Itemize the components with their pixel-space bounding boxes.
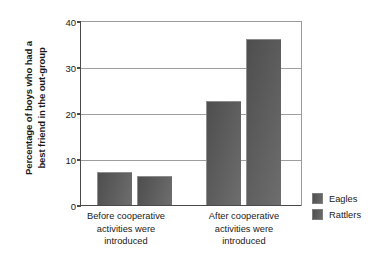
- x-axis-group-label-0: Before cooperative activities were intro…: [66, 210, 186, 248]
- y-axis-tick-mark: [77, 67, 81, 68]
- legend: Eagles Rattlers: [312, 193, 361, 225]
- bar-eagles-group-1: [206, 101, 241, 206]
- y-axis-tick-label: 30: [65, 63, 76, 74]
- x-label-line: Before cooperative: [66, 210, 186, 223]
- bar-rattlers-group-1: [246, 39, 281, 206]
- x-label-line: activities were: [184, 223, 304, 236]
- x-axis-group-label-1: After cooperative activities were introd…: [184, 210, 304, 248]
- x-label-line: activities were: [66, 223, 186, 236]
- y-axis-tick-label: 10: [65, 155, 76, 166]
- x-axis-line: [80, 205, 301, 206]
- legend-item-eagles: Eagles: [312, 193, 361, 204]
- legend-swatch-icon: [312, 193, 323, 204]
- legend-item-rattlers: Rattlers: [312, 209, 361, 220]
- y-axis-tick-mark: [77, 159, 81, 160]
- y-axis-tick-mark: [77, 21, 81, 22]
- x-label-line: After cooperative: [184, 210, 304, 223]
- legend-label: Eagles: [329, 194, 357, 204]
- y-axis-title-line-2: best friend in the out-group: [35, 41, 48, 175]
- legend-swatch-icon: [312, 209, 323, 220]
- x-label-line: introduced: [184, 235, 304, 248]
- legend-label: Rattlers: [329, 210, 361, 220]
- bar-rattlers-group-0: [137, 176, 172, 206]
- plot-area: 010203040: [80, 21, 302, 206]
- bar-chart: Percentage of boys who had a best friend…: [0, 0, 385, 267]
- y-axis-title-line-1: Percentage of boys who had a: [22, 41, 35, 175]
- y-axis-title: Percentage of boys who had a best friend…: [14, 0, 56, 215]
- y-axis-tick-label: 20: [65, 109, 76, 120]
- bar-eagles-group-0: [97, 172, 132, 206]
- y-axis-tick-mark: [77, 113, 81, 114]
- x-label-line: introduced: [66, 235, 186, 248]
- y-axis-tick-label: 40: [65, 17, 76, 28]
